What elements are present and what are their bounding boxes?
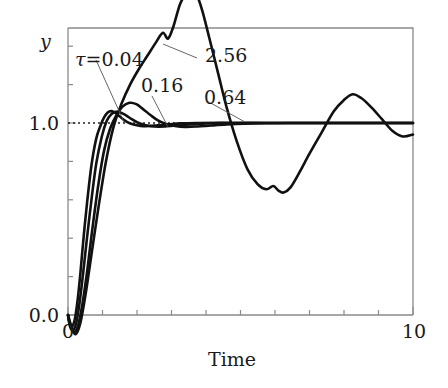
y-axis-label: y — [39, 30, 51, 52]
series-label-064: 0.64 — [204, 86, 246, 108]
y-tick-label-1: 1.0 — [29, 112, 59, 134]
y-tick-label-0: 0.0 — [29, 304, 59, 326]
chart-figure: y Time 0.0 1.0 0 10 τ=0.04 0.16 0.64 2.5… — [0, 0, 448, 388]
plot-canvas: y Time 0.0 1.0 0 10 τ=0.04 0.16 0.64 2.5… — [0, 0, 448, 388]
series-label-016: 0.16 — [141, 74, 183, 96]
series-label-tau-prefix: τ=0.04 — [75, 48, 144, 70]
x-tick-label-10: 10 — [402, 320, 426, 342]
tau-symbol: τ= — [75, 48, 101, 70]
series-label-004: 0.04 — [101, 48, 143, 70]
series-label-256: 2.56 — [205, 44, 247, 66]
x-axis-label: Time — [208, 348, 256, 370]
x-tick-label-0: 0 — [62, 320, 74, 342]
